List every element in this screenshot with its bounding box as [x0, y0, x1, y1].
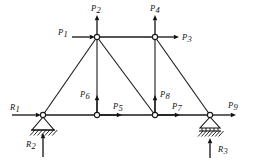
load-p3-arrowhead-icon	[174, 35, 179, 40]
bottom-right-support-joint	[207, 112, 212, 117]
load-p1-subscript: 1	[64, 29, 68, 39]
load-p2-label: P2	[90, 3, 102, 15]
load-p5-arrow	[99, 113, 122, 118]
left-diagonal-A-E	[43, 37, 97, 115]
load-p5-label: P5	[112, 101, 123, 113]
top-right-joint	[152, 34, 157, 39]
load-p4-arrowhead-icon	[153, 15, 158, 20]
reaction-r3-arrow	[208, 138, 213, 158]
reaction-r1-label: R1	[9, 102, 20, 114]
load-p2-subscript: 2	[97, 5, 102, 15]
load-p4-letter: P	[149, 3, 155, 13]
load-p9-arrow	[212, 113, 236, 118]
pin-support-left	[30, 117, 57, 136]
load-p5-letter: P	[112, 101, 118, 111]
truss-supports	[30, 117, 224, 137]
reaction-r3-subscript: 3	[223, 146, 228, 156]
load-p6-label: P6	[79, 89, 91, 101]
load-p7-subscript: 7	[178, 103, 183, 113]
load-p3-label: P3	[181, 32, 192, 44]
load-p2-arrowhead-icon	[95, 15, 100, 20]
load-p8-arrow	[153, 95, 158, 113]
diagonal-C-E	[97, 37, 155, 115]
load-p8-letter: P	[159, 89, 165, 99]
reaction-r1-subscript: 1	[16, 104, 20, 114]
load-p5-subscript: 5	[119, 103, 123, 113]
load-p6-subscript: 6	[86, 91, 91, 101]
load-p8-label: P8	[159, 89, 171, 101]
roller-triangle-icon	[200, 117, 220, 128]
load-p3-letter: P	[181, 32, 187, 42]
roller-support-right	[198, 117, 224, 137]
load-p4-subscript: 4	[156, 5, 161, 15]
load-p8-arrowhead-icon	[153, 95, 158, 100]
reaction-r3-label: R3	[217, 144, 228, 156]
load-p3-subscript: 3	[187, 34, 192, 44]
truss-members	[43, 37, 210, 115]
pin-triangle-icon	[32, 117, 54, 130]
load-p7-arrow	[157, 113, 180, 118]
reaction-r2-label: R2	[25, 139, 37, 151]
load-p1-label: P1	[57, 27, 68, 39]
reaction-r2-arrow	[41, 133, 46, 157]
load-p9-label: P9	[227, 100, 239, 112]
reaction-r3-arrowhead-icon	[208, 138, 213, 143]
load-p1-letter: P	[57, 27, 63, 37]
top-left-joint	[94, 34, 99, 39]
load-p4-label: P4	[149, 3, 161, 15]
bottom-third-joint	[152, 112, 157, 117]
load-p9-letter: P	[227, 100, 233, 110]
reaction-r2-subscript: 2	[32, 141, 37, 151]
load-p9-subscript: 9	[234, 102, 239, 112]
truss-canvas: P1P2P3P4P5P6P7P8P9R1R2R3	[0, 0, 254, 163]
load-p6-arrow	[95, 95, 100, 113]
load-p4-arrow	[153, 15, 158, 35]
load-p6-arrowhead-icon	[95, 95, 100, 100]
bottom-second-joint	[94, 112, 99, 117]
load-p7-arrowhead-icon	[175, 113, 180, 118]
load-p1-arrowhead-icon	[90, 35, 95, 40]
load-p7-label: P7	[171, 101, 183, 113]
right-diagonal-D-F	[155, 37, 210, 115]
truss-diagram: P1P2P3P4P5P6P7P8P9R1R2R3	[0, 0, 254, 163]
load-p1-arrow	[72, 35, 95, 40]
reaction-r1-arrowhead-icon	[36, 113, 41, 118]
load-p3-arrow	[157, 35, 179, 40]
load-p8-subscript: 8	[166, 91, 171, 101]
load-p7-letter: P	[171, 101, 177, 111]
load-p5-arrowhead-icon	[117, 113, 122, 118]
load-p9-arrowhead-icon	[231, 113, 236, 118]
bottom-left-support-joint	[40, 112, 45, 117]
load-p2-arrow	[95, 15, 100, 35]
load-p2-letter: P	[90, 3, 96, 13]
load-p6-letter: P	[79, 89, 85, 99]
